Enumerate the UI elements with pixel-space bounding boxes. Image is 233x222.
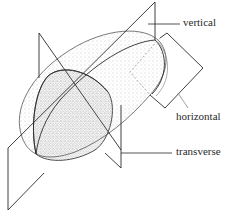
ellipsoid <box>19 31 167 160</box>
ellipsoid-planes-diagram: vertical horizontal transverse <box>0 0 233 222</box>
label-transverse: transverse <box>176 146 221 157</box>
horizontal-leader <box>178 93 188 108</box>
label-horizontal: horizontal <box>176 111 221 122</box>
label-vertical: vertical <box>183 17 216 28</box>
